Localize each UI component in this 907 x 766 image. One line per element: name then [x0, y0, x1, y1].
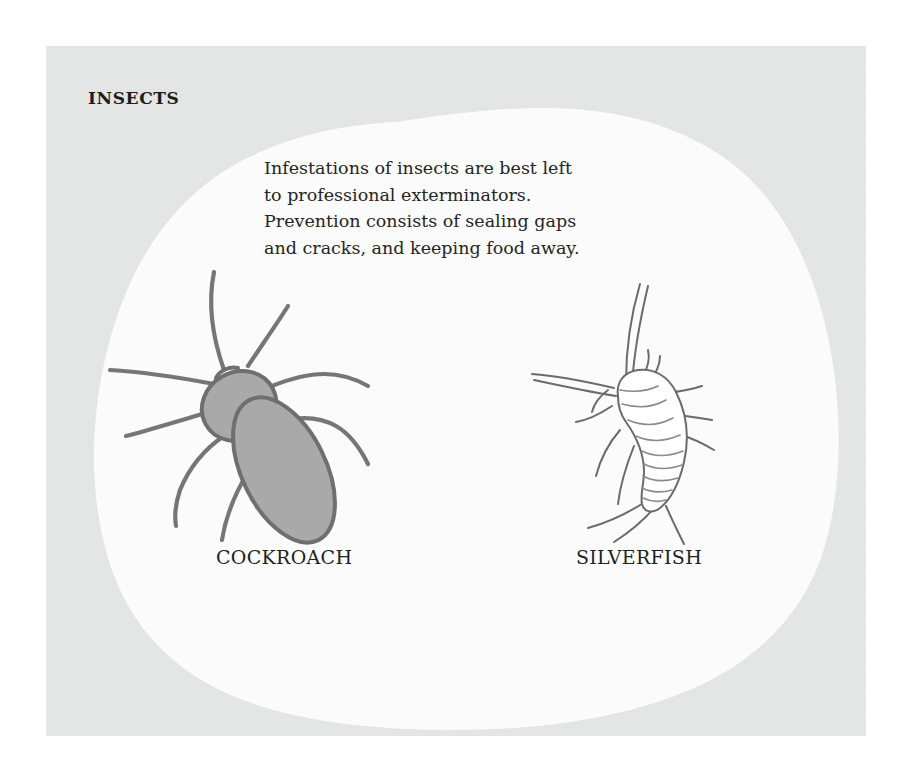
- cockroach-antenna-right: [248, 306, 288, 366]
- body-paragraph: Infestations of insects are best left to…: [264, 155, 624, 261]
- silverfish-leg-hind-left: [618, 446, 634, 504]
- page-title: INSECTS: [88, 88, 179, 108]
- body-line: Prevention consists of sealing gaps: [264, 208, 624, 235]
- cockroach-antenna-left: [211, 272, 224, 370]
- insects-page: INSECTS Infestations of insects are best…: [0, 0, 907, 766]
- silverfish-antenna-left: [532, 374, 614, 388]
- body-line: to professional exterminators.: [264, 182, 624, 209]
- silverfish-illustration: [530, 278, 750, 548]
- cockroach-illustration: [96, 258, 396, 558]
- silverfish-leg-mid-left: [596, 430, 620, 476]
- caption-cockroach: COCKROACH: [216, 546, 352, 568]
- cockroach-leg-front-left: [110, 370, 214, 384]
- cockroach-leg-hind-left: [175, 436, 224, 526]
- body-line: Infestations of insects are best left: [264, 155, 624, 182]
- caption-silverfish: SILVERFISH: [576, 546, 702, 568]
- silverfish-cercus-right: [666, 506, 684, 544]
- cockroach-leg-front-right: [272, 374, 368, 386]
